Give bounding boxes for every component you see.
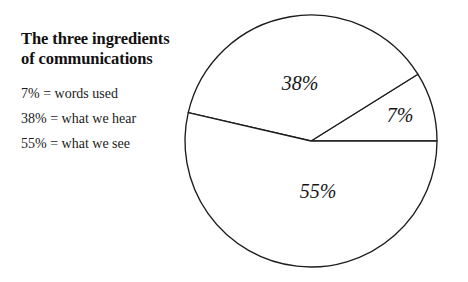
pie-slices (185, 15, 437, 267)
pie-label-7-percent: 7% (387, 104, 414, 126)
pie-label-38-percent: 38% (281, 72, 319, 94)
pie-chart: 7% 38% 55% (0, 0, 468, 282)
pie-label-55-percent: 55% (300, 180, 337, 202)
chart-canvas: The three ingredients of communications … (0, 0, 468, 282)
